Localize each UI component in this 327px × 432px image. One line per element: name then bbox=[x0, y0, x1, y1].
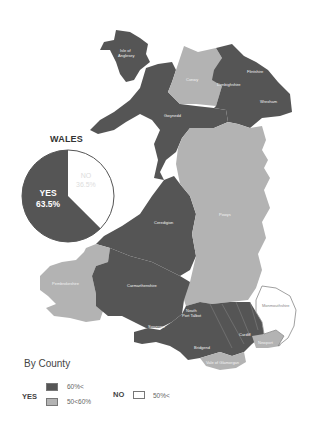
pie-yes-label: YES 63.5% bbox=[36, 188, 60, 210]
pie-no-text: NO bbox=[76, 171, 96, 180]
svg-text:Bridgend: Bridgend bbox=[194, 345, 210, 350]
svg-text:Wrexham: Wrexham bbox=[260, 99, 278, 104]
svg-text:Port Talbot: Port Talbot bbox=[182, 313, 202, 318]
legend-no-label: NO bbox=[113, 390, 124, 399]
wales-title: WALES bbox=[50, 134, 83, 144]
pie-yes-pct: 63.5% bbox=[36, 199, 60, 210]
legend-range-yes-mid: 50<60% bbox=[67, 398, 91, 405]
svg-text:Denbighshire: Denbighshire bbox=[217, 82, 241, 87]
legend-range-yes-high: 60%< bbox=[67, 383, 84, 390]
svg-text:Anglesey: Anglesey bbox=[118, 53, 134, 58]
legend-swatch-no bbox=[133, 391, 145, 399]
legend-title: By County bbox=[24, 358, 70, 369]
svg-text:Carmarthenshire: Carmarthenshire bbox=[127, 283, 158, 288]
legend-range-no: 50%< bbox=[153, 392, 170, 399]
svg-text:Pembrokeshire: Pembrokeshire bbox=[52, 281, 80, 286]
svg-text:Cardiff: Cardiff bbox=[239, 332, 252, 337]
svg-text:Vale of Glamorgan: Vale of Glamorgan bbox=[206, 360, 239, 365]
svg-text:Powys: Powys bbox=[219, 212, 231, 217]
svg-text:Newport: Newport bbox=[258, 340, 274, 345]
svg-text:Conwy: Conwy bbox=[186, 77, 198, 82]
svg-text:Monmouthshire: Monmouthshire bbox=[262, 303, 290, 308]
legend-swatch-yes-mid bbox=[46, 398, 58, 406]
svg-text:Flintshire: Flintshire bbox=[247, 69, 264, 74]
svg-text:Swansea: Swansea bbox=[148, 324, 165, 329]
svg-text:Gwynedd: Gwynedd bbox=[164, 113, 181, 118]
pie-no-pct: 36.5% bbox=[76, 180, 96, 189]
legend-swatch-yes-high bbox=[46, 383, 58, 391]
pie-yes-text: YES bbox=[36, 188, 60, 199]
legend-yes-label: YES bbox=[22, 392, 37, 401]
svg-text:Ceredigion: Ceredigion bbox=[154, 220, 173, 225]
pie-no-label: NO 36.5% bbox=[76, 171, 96, 189]
